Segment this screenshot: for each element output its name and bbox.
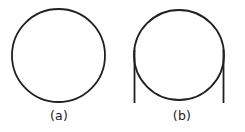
panel-label-a: (a) bbox=[0, 110, 118, 123]
panel-label-b: (b) bbox=[123, 110, 241, 123]
figure-container: (a) (b) bbox=[0, 0, 245, 132]
